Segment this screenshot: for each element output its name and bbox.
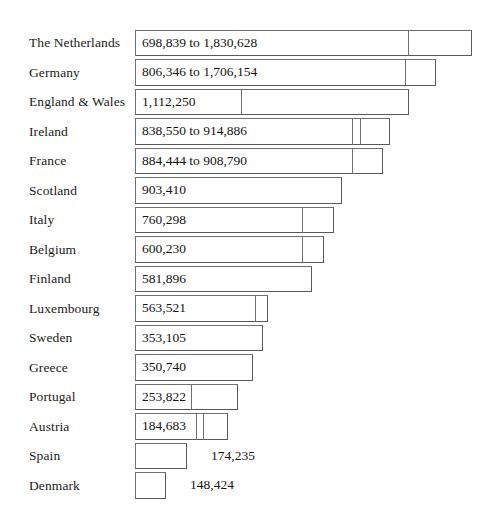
bar-segment-extension (241, 89, 409, 116)
bar-value-label: 148,424 (190, 472, 234, 499)
category-label: Spain (29, 441, 60, 471)
bar-value-label: 184,683 (142, 413, 186, 440)
category-label: Portugal (29, 382, 76, 412)
bar-value-label: 353,105 (142, 325, 186, 352)
bar-segment-base (135, 443, 187, 470)
bar-value-label: 806,346 to 1,706,154 (142, 59, 257, 86)
bar-row: Austria184,683 (0, 412, 491, 442)
bar-value-label: 350,740 (142, 354, 186, 381)
bar-value-label: 174,235 (211, 443, 255, 470)
bar-row: Denmark148,424 (0, 471, 491, 501)
category-label: Ireland (29, 117, 68, 147)
bar-segment-extension (352, 148, 383, 175)
bar-row: Greece350,740 (0, 353, 491, 383)
bar-value-label: 253,822 (142, 384, 186, 411)
bar-row: France884,444 to 908,790 (0, 146, 491, 176)
bar-value-label: 600,230 (142, 236, 186, 263)
category-label: Greece (29, 353, 68, 383)
category-label: Belgium (29, 235, 76, 265)
bar-value-label: 884,444 to 908,790 (142, 148, 247, 175)
bar-segment-extension (405, 59, 436, 86)
category-label: Germany (29, 58, 80, 88)
category-label: Sweden (29, 323, 72, 353)
bar-value-label: 838,550 to 914,886 (142, 118, 247, 145)
category-label: Luxembourg (29, 294, 100, 324)
bar-row: Sweden353,105 (0, 323, 491, 353)
horizontal-bar-chart: The Netherlands698,839 to 1,830,628Germa… (0, 0, 491, 506)
bar-segment-base (135, 472, 166, 499)
category-label: Italy (29, 205, 54, 235)
bar-segment-extension (360, 118, 390, 145)
bar-segment-extension (302, 207, 334, 234)
bar-row: Luxembourg563,521 (0, 294, 491, 324)
bar-row: Italy760,298 (0, 205, 491, 235)
bar-value-label: 1,112,250 (142, 89, 196, 116)
bar-value-label: 581,896 (142, 266, 186, 293)
category-label: The Netherlands (29, 28, 120, 58)
bar-row: Germany806,346 to 1,706,154 (0, 58, 491, 88)
category-label: England & Wales (29, 87, 125, 117)
bar-value-label: 760,298 (142, 207, 186, 234)
bar-row: England & Wales1,112,250 (0, 87, 491, 117)
bar-segment-extension (191, 384, 238, 411)
bar-value-label: 698,839 to 1,830,628 (142, 30, 257, 57)
bar-segment-extension (302, 236, 324, 263)
bar-row: Belgium600,230 (0, 235, 491, 265)
category-label: Scotland (29, 176, 77, 206)
bar-value-label: 563,521 (142, 295, 186, 322)
bar-segment-extension (203, 413, 228, 440)
category-label: Denmark (29, 471, 80, 501)
category-label: Finland (29, 264, 71, 294)
bar-segment-extension (408, 30, 472, 57)
bar-row: Portugal253,822 (0, 382, 491, 412)
bar-row: Scotland903,410 (0, 176, 491, 206)
bar-segment-extension (255, 295, 268, 322)
bar-row: The Netherlands698,839 to 1,830,628 (0, 28, 491, 58)
bar-row: Ireland838,550 to 914,886 (0, 117, 491, 147)
category-label: France (29, 146, 66, 176)
category-label: Austria (29, 412, 69, 442)
bar-row: Finland581,896 (0, 264, 491, 294)
bar-row: Spain174,235 (0, 441, 491, 471)
bar-value-label: 903,410 (142, 177, 186, 204)
